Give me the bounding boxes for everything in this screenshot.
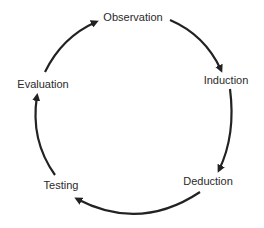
arrow-deduction-to-testing	[77, 192, 200, 214]
cycle-arrows	[0, 0, 264, 228]
node-evaluation: Evaluation	[17, 79, 68, 90]
node-observation: Observation	[103, 12, 162, 23]
arrow-testing-to-evaluation	[35, 96, 55, 175]
node-induction: Induction	[204, 75, 249, 86]
arrow-evaluation-to-observation	[45, 22, 96, 72]
arrow-observation-to-induction	[170, 20, 221, 70]
arrow-induction-to-deduction	[219, 89, 232, 170]
node-testing: Testing	[44, 180, 79, 191]
node-deduction: Deduction	[183, 176, 233, 187]
